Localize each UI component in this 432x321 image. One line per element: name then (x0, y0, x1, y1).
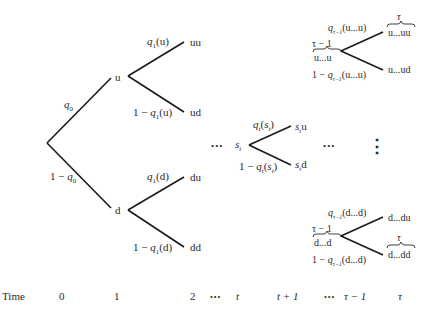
d-up-prob: q1(d) (147, 170, 169, 185)
edge-u-up (128, 42, 184, 76)
node-u-uu: u...uu (388, 27, 411, 38)
binomial-tree-diagram: q0 1 − q0 u q1(u) 1 − q1(u) uu ud d q1(d… (0, 0, 432, 321)
edge-root-up (47, 78, 111, 143)
node-ud: ud (190, 106, 202, 118)
d-down-prob: 1 − q1(d) (133, 241, 172, 256)
time-tick-tau-minus-1: τ − 1 (344, 290, 366, 302)
node-st-u: stu (295, 120, 307, 135)
st-down-prob: 1 − qt(st) (239, 160, 278, 175)
node-d: d (115, 204, 121, 216)
tree-svg: q0 1 − q0 u q1(u) 1 − q1(u) uu ud d q1(d… (0, 0, 432, 321)
time-tick-ellipsis-2: ••• (324, 293, 335, 302)
br-down-prob: 1 − qτ−1(d...d) (312, 254, 366, 267)
edge-tr-down (341, 51, 383, 70)
time-tick-ellipsis-1: ••• (210, 293, 221, 302)
time-tick-2: 2 (190, 290, 196, 302)
u-down-prob: 1 − q1(u) (133, 106, 172, 121)
node-d-du: d...du (388, 212, 411, 223)
root-down-prob: 1 − q0 (50, 170, 77, 185)
br-node-brace-label: τ − 1 (312, 223, 332, 234)
tr-node: u...u (314, 52, 332, 63)
node-dd: dd (190, 241, 202, 253)
vertical-ellipsis: ⋮ (368, 136, 386, 156)
node-u-ud: u...ud (388, 64, 411, 75)
node-du: du (190, 171, 202, 183)
tr-up-child-brace-label: τ (397, 11, 401, 22)
st-up-prob: qt(st) (253, 118, 274, 133)
tr-down-prob: 1 − qτ−1(u...u) (312, 69, 366, 82)
edge-br-up (341, 217, 383, 236)
br-down-child-brace-label: τ (397, 232, 401, 243)
time-tick-t-plus-1: t + 1 (277, 290, 298, 302)
tr-up-prob: qτ−1(u...u) (328, 22, 366, 35)
edge-br-down (341, 236, 383, 255)
time-tick-t: t (236, 290, 240, 302)
root-up-prob: q0 (64, 98, 74, 113)
time-tick-tau: τ (398, 290, 403, 302)
node-u: u (115, 71, 121, 83)
u-up-prob: q1(u) (147, 35, 169, 50)
node-uu: uu (190, 36, 202, 48)
node-st-d: std (295, 158, 307, 173)
br-down-child-brace (387, 242, 415, 248)
edge-tr-up (341, 32, 383, 51)
tr-node-brace-label: τ − 1 (312, 38, 332, 49)
ellipsis-before-st: ••• (211, 141, 223, 151)
time-tick-0: 0 (59, 290, 65, 302)
node-d-dd: d...dd (388, 249, 411, 260)
node-st: st (235, 138, 242, 153)
time-tick-1: 1 (114, 290, 120, 302)
time-label: Time (2, 290, 25, 302)
br-up-prob: qτ−1(d...d) (328, 207, 366, 220)
br-node: d...d (314, 237, 332, 248)
time-axis: Time 0 1 2 ••• t t + 1 ••• τ − 1 τ (2, 290, 403, 302)
ellipsis-after-st: ••• (323, 141, 335, 151)
